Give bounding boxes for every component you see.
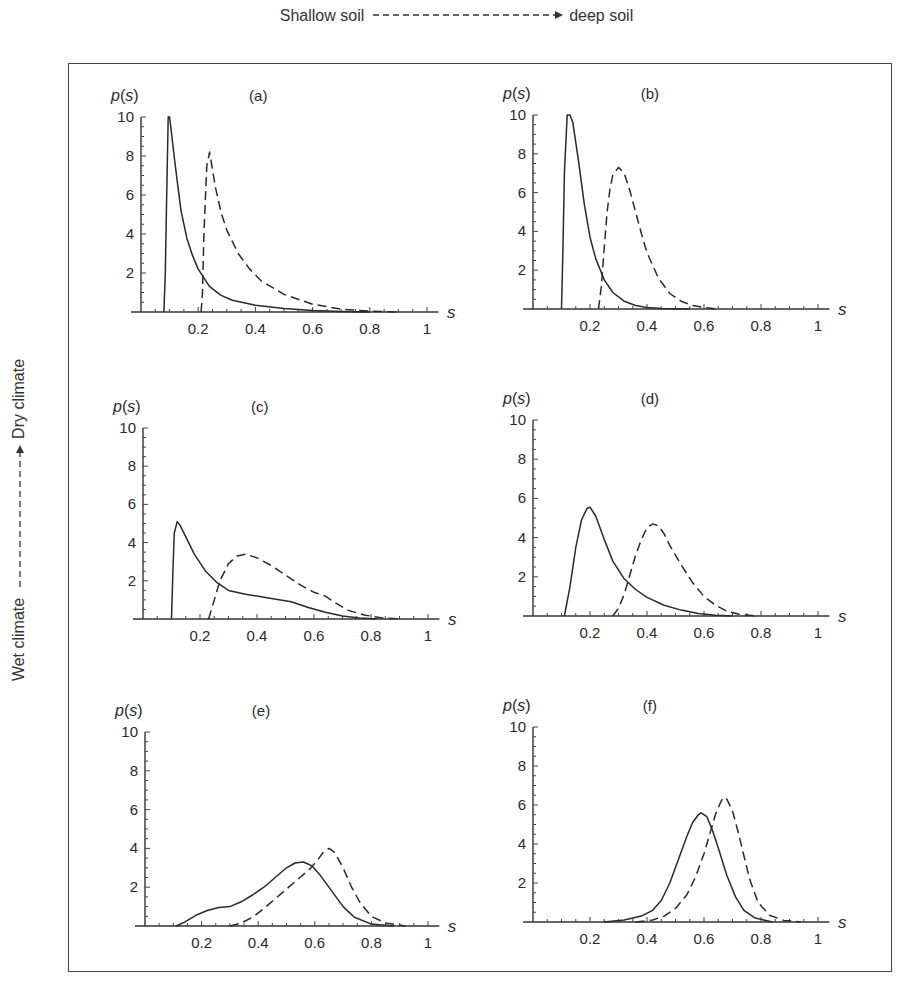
y-tick-label: 10 xyxy=(121,723,138,740)
y-tick-label: 2 xyxy=(518,874,526,891)
x-tick-label: 0.6 xyxy=(694,930,715,947)
y-tick-label: 2 xyxy=(518,568,526,585)
panel-title: (e) xyxy=(252,702,270,719)
x-tick-label: 1 xyxy=(814,930,822,947)
deep-soil-curve xyxy=(209,554,400,619)
x-tick-label: 0.4 xyxy=(637,624,658,641)
x-tick-label: 0.8 xyxy=(751,317,772,334)
x-tick-label: 1 xyxy=(424,934,432,951)
x-tick-label: 1 xyxy=(424,627,432,644)
panel-title: (d) xyxy=(641,390,659,407)
x-tick-label: 0.2 xyxy=(580,624,601,641)
deep-soil-curve xyxy=(599,167,719,309)
y-tick-label: 4 xyxy=(126,225,134,242)
y-axis-label: p(s) xyxy=(502,697,531,714)
y-tick-label: 2 xyxy=(128,572,136,589)
x-axis-label: s xyxy=(448,917,457,936)
x-axis-label: s xyxy=(838,913,847,932)
x-tick-label: 0.4 xyxy=(245,320,266,337)
panel-title: (f) xyxy=(643,697,657,714)
x-tick-label: 0.6 xyxy=(304,627,325,644)
panel-c: 0.20.40.60.81246810p(s)s(c) xyxy=(112,398,457,644)
x-tick-label: 0.4 xyxy=(247,627,268,644)
y-tick-label: 4 xyxy=(518,529,526,546)
x-axis-label: s xyxy=(838,300,847,319)
x-tick-label: 0.2 xyxy=(188,320,209,337)
y-tick-label: 4 xyxy=(518,835,526,852)
y-tick-label: 10 xyxy=(117,108,134,125)
y-tick-label: 10 xyxy=(509,106,526,123)
y-tick-label: 6 xyxy=(518,489,526,506)
deep-soil-curve xyxy=(230,848,406,926)
x-axis-label: s xyxy=(447,303,456,322)
x-tick-label: 1 xyxy=(814,624,822,641)
x-tick-label: 0.2 xyxy=(191,934,212,951)
y-tick-label: 6 xyxy=(126,186,134,203)
plot-panels: 0.20.40.60.81246810p(s)s(a)0.20.40.60.81… xyxy=(0,0,913,995)
shallow-soil-curve xyxy=(172,522,377,619)
panel-d: 0.20.40.60.81246810p(s)s(d) xyxy=(502,390,847,641)
y-axis-label: p(s) xyxy=(110,87,139,104)
shallow-soil-curve xyxy=(176,862,394,926)
y-axis-label: p(s) xyxy=(114,702,143,719)
shallow-soil-curve xyxy=(164,117,370,312)
x-tick-label: 0.6 xyxy=(304,934,325,951)
y-tick-label: 8 xyxy=(128,457,136,474)
panel-e: 0.20.40.60.81246810p(s)s(e) xyxy=(114,702,457,951)
x-tick-label: 0.6 xyxy=(694,317,715,334)
y-tick-label: 6 xyxy=(518,796,526,813)
y-axis-label: p(s) xyxy=(502,390,531,407)
x-axis-label: s xyxy=(448,610,457,629)
y-axis-label: p(s) xyxy=(112,398,141,415)
y-axis-label: p(s) xyxy=(502,85,531,102)
y-tick-label: 10 xyxy=(509,718,526,735)
x-axis-label: s xyxy=(838,607,847,626)
y-tick-label: 8 xyxy=(130,762,138,779)
x-tick-label: 1 xyxy=(814,317,822,334)
deep-soil-curve xyxy=(636,797,801,922)
y-tick-label: 2 xyxy=(126,264,134,281)
x-tick-label: 0.4 xyxy=(637,317,658,334)
y-tick-label: 10 xyxy=(509,411,526,428)
y-tick-label: 10 xyxy=(119,419,136,436)
x-tick-label: 0.8 xyxy=(751,624,772,641)
y-tick-label: 4 xyxy=(130,839,138,856)
y-tick-label: 6 xyxy=(128,495,136,512)
panel-b: 0.20.40.60.81246810p(s)s(b) xyxy=(502,85,847,334)
x-tick-label: 0.2 xyxy=(580,317,601,334)
x-tick-label: 0.8 xyxy=(361,627,382,644)
x-tick-label: 0.6 xyxy=(694,624,715,641)
x-tick-label: 1 xyxy=(423,320,431,337)
y-tick-label: 6 xyxy=(518,184,526,201)
panel-title: (b) xyxy=(641,85,659,102)
x-tick-label: 0.2 xyxy=(580,930,601,947)
x-tick-label: 0.4 xyxy=(637,930,658,947)
figure: Shallow soil deep soil Wet climate Dry c… xyxy=(0,0,913,995)
y-tick-label: 4 xyxy=(128,534,136,551)
y-tick-label: 8 xyxy=(518,450,526,467)
y-tick-label: 2 xyxy=(518,261,526,278)
x-tick-label: 0.4 xyxy=(248,934,269,951)
y-tick-label: 2 xyxy=(130,878,138,895)
y-tick-label: 6 xyxy=(130,801,138,818)
panel-a: 0.20.40.60.81246810p(s)s(a) xyxy=(110,87,456,337)
x-tick-label: 0.8 xyxy=(359,320,380,337)
panel-title: (c) xyxy=(251,398,269,415)
panel-title: (a) xyxy=(249,87,267,104)
shallow-soil-curve xyxy=(562,115,690,309)
y-tick-label: 4 xyxy=(518,222,526,239)
x-tick-label: 0.6 xyxy=(302,320,323,337)
x-tick-label: 0.8 xyxy=(751,930,772,947)
panel-f: 0.20.40.60.81246810p(s)s(f) xyxy=(502,697,847,947)
y-tick-label: 8 xyxy=(518,145,526,162)
x-tick-label: 0.8 xyxy=(361,934,382,951)
deep-soil-curve xyxy=(613,524,756,616)
x-tick-label: 0.2 xyxy=(190,627,211,644)
deep-soil-curve xyxy=(201,152,398,312)
y-tick-label: 8 xyxy=(126,147,134,164)
y-tick-label: 8 xyxy=(518,757,526,774)
